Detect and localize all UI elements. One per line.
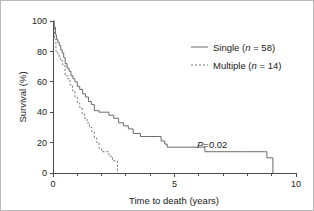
x-tick-label-0: 0 [50, 179, 55, 189]
y-tick-label-60: 60 [37, 77, 47, 87]
p-value-annotation: P=0.02 [197, 139, 227, 150]
x-tick-label-10: 10 [291, 179, 301, 189]
y-axis-ticks [50, 21, 54, 173]
y-tick-label-20: 20 [37, 138, 47, 148]
y-axis-tick-labels: 020406080100 [32, 16, 47, 178]
annotation-group: P=0.02 [197, 139, 227, 150]
y-tick-label-40: 40 [37, 107, 47, 117]
x-axis-tick-labels: 0510 [50, 179, 301, 189]
y-tick-label-100: 100 [32, 16, 47, 26]
figure-container: 020406080100 0510 Single (n = 58) Multip… [0, 0, 314, 211]
y-tick-label-0: 0 [42, 168, 47, 178]
survival-chart: 020406080100 0510 Single (n = 58) Multip… [1, 1, 314, 211]
x-axis-title: Time to death (years) [129, 195, 219, 206]
legend-label-single: Single (n = 58) [213, 42, 275, 53]
legend: Single (n = 58) Multiple (n = 14) [191, 42, 281, 71]
legend-label-multiple: Multiple (n = 14) [213, 60, 281, 71]
x-tick-label-5: 5 [172, 179, 177, 189]
y-tick-label-80: 80 [37, 47, 47, 57]
y-axis-title: Survival (%) [17, 71, 28, 122]
x-axis-ticks [53, 173, 296, 177]
